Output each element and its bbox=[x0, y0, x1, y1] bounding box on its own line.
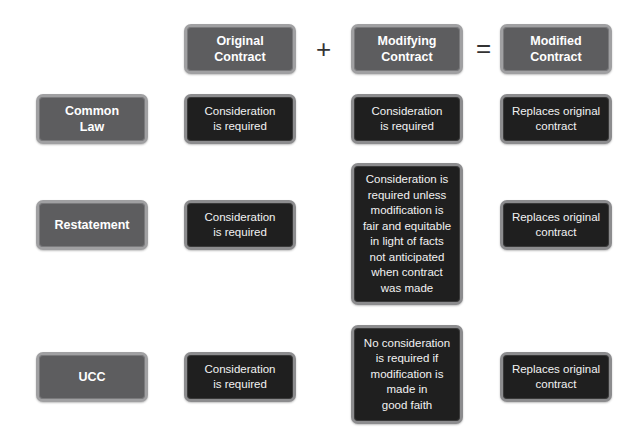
row-label-text: Common Law bbox=[65, 103, 119, 135]
cell-restatement-original: Consideration is required bbox=[184, 200, 296, 250]
header-modified-contract: Modified Contract bbox=[500, 24, 612, 74]
equals-operator: = bbox=[476, 35, 491, 61]
cell-common-law-modified: Replaces original contract bbox=[500, 94, 612, 144]
cell-text: Consideration is required bbox=[205, 104, 276, 135]
row-label-text: Restatement bbox=[54, 217, 129, 233]
cell-text: Replaces original contract bbox=[512, 104, 600, 135]
header-modifying-label: Modifying Contract bbox=[377, 33, 436, 65]
cell-text: No consideration is required if modifica… bbox=[364, 336, 450, 414]
cell-ucc-modified: Replaces original contract bbox=[500, 352, 612, 402]
row-label-common-law: Common Law bbox=[36, 94, 148, 144]
cell-text: Replaces original contract bbox=[512, 210, 600, 241]
row-label-ucc: UCC bbox=[36, 352, 148, 402]
header-modifying-contract: Modifying Contract bbox=[351, 24, 463, 74]
cell-ucc-original: Consideration is required bbox=[184, 352, 296, 402]
plus-operator: + bbox=[316, 36, 331, 62]
cell-ucc-modifying: No consideration is required if modifica… bbox=[351, 325, 463, 424]
cell-restatement-modified: Replaces original contract bbox=[500, 200, 612, 250]
cell-text: Replaces original contract bbox=[512, 362, 600, 393]
row-label-restatement: Restatement bbox=[36, 200, 148, 250]
header-original-label: Original Contract bbox=[214, 33, 265, 65]
cell-text: Consideration is required unless modific… bbox=[363, 172, 451, 296]
row-label-text: UCC bbox=[78, 369, 105, 385]
cell-restatement-modifying: Consideration is required unless modific… bbox=[351, 163, 463, 305]
cell-text: Consideration is required bbox=[372, 104, 443, 135]
cell-text: Consideration is required bbox=[205, 362, 276, 393]
header-original-contract: Original Contract bbox=[184, 24, 296, 74]
header-modified-label: Modified Contract bbox=[530, 33, 581, 65]
cell-common-law-modifying: Consideration is required bbox=[351, 94, 463, 144]
cell-text: Consideration is required bbox=[205, 210, 276, 241]
cell-common-law-original: Consideration is required bbox=[184, 94, 296, 144]
